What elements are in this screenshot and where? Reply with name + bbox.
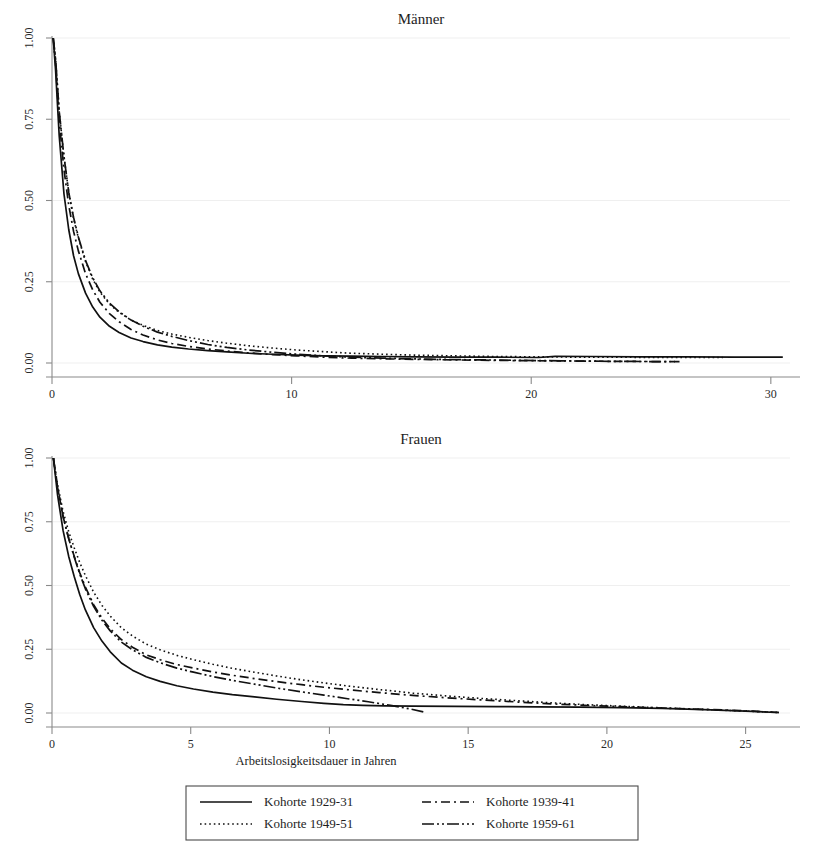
- y-tick-label-2: 0.50: [22, 190, 36, 211]
- survival-curves-figure: Männer0.000.250.500.751.000102030 Frauen…: [0, 0, 815, 851]
- y-tick-label-3: 0.75: [22, 511, 36, 532]
- legend: Kohorte 1929-31Kohorte 1939-41Kohorte 19…: [186, 786, 638, 840]
- y-tick-label-4: 1.00: [22, 448, 36, 469]
- legend-label-0: Kohorte 1929-31: [264, 794, 353, 809]
- x-tick-label-3: 15: [462, 737, 474, 751]
- y-tick-label-1: 0.25: [22, 271, 36, 292]
- legend-label-1: Kohorte 1939-41: [486, 794, 575, 809]
- figure-container: Männer0.000.250.500.751.000102030 Frauen…: [0, 0, 815, 851]
- x-tick-label-1: 10: [286, 387, 298, 401]
- x-tick-label-5: 25: [740, 737, 752, 751]
- x-tick-label-1: 5: [188, 737, 194, 751]
- panel-title: Männer: [398, 11, 445, 27]
- y-tick-label-1: 0.25: [22, 639, 36, 660]
- legend-label-2: Kohorte 1949-51: [264, 816, 353, 831]
- y-tick-label-2: 0.50: [22, 575, 36, 596]
- x-tick-label-2: 10: [323, 737, 335, 751]
- x-tick-label-3: 30: [765, 387, 777, 401]
- figure-background: [0, 0, 815, 851]
- y-tick-label-4: 1.00: [22, 28, 36, 49]
- y-tick-label-0: 0.00: [22, 703, 36, 724]
- y-tick-label-3: 0.75: [22, 109, 36, 130]
- x-tick-label-2: 20: [525, 387, 537, 401]
- x-tick-label-4: 20: [601, 737, 613, 751]
- legend-label-3: Kohorte 1959-61: [486, 816, 575, 831]
- x-tick-label-0: 0: [49, 737, 55, 751]
- panel-title: Frauen: [400, 431, 442, 447]
- x-axis-title: Arbeitslosigkeitsdauer in Jahren: [235, 754, 397, 768]
- y-tick-label-0: 0.00: [22, 353, 36, 374]
- x-tick-label-0: 0: [49, 387, 55, 401]
